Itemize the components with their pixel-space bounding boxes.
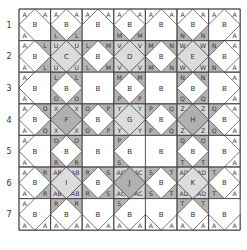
grid-cell-r2-c3: LMLMB <box>82 41 114 73</box>
center-label: D <box>127 53 132 61</box>
center-label: B <box>32 211 37 219</box>
grid-cell-r5-c3: B <box>82 135 114 167</box>
corner-label: W <box>200 42 206 49</box>
corner-label: M <box>148 64 153 71</box>
corner-label: R <box>75 200 80 207</box>
corner-label: N <box>201 32 206 39</box>
corner-label: R <box>54 200 59 207</box>
row-label: 3 <box>6 84 11 93</box>
grid-cell-r1-c1: AAAB <box>19 9 51 41</box>
center-label: B <box>222 148 227 156</box>
grid-cell-r6-c3: RSRSB <box>82 167 114 199</box>
corner-label: Y <box>116 127 121 134</box>
corner-label: P <box>138 95 142 102</box>
grid-cell-r7-c4: SAAB <box>114 199 146 231</box>
center-label: B <box>96 21 101 29</box>
center-label: B <box>32 53 37 61</box>
corner-label: T <box>169 190 174 197</box>
center-label: B <box>127 148 132 156</box>
corner-label: O <box>85 127 90 134</box>
corner-label: Q <box>212 127 217 134</box>
grid-cell-r3-c7: AAB <box>209 72 241 104</box>
corner-label: R <box>86 169 91 176</box>
corner-label: R <box>54 159 59 166</box>
center-label: B <box>32 85 37 93</box>
center-label: B <box>32 116 37 124</box>
grid-cell-r5-c4: PSB <box>114 135 146 167</box>
center-label: B <box>222 21 227 29</box>
corner-label: Q <box>201 137 206 144</box>
corner-label: Z <box>201 105 205 112</box>
center-label: B <box>159 148 164 156</box>
corner-label: S <box>106 169 110 176</box>
grid-cell-r7-c1: AAAB <box>19 199 51 231</box>
center-label: B <box>32 179 37 187</box>
center-label: B <box>190 211 195 219</box>
corner-label: S <box>117 159 121 166</box>
center-label: B <box>222 211 227 219</box>
grid-cell-r5-c6: QQTTB <box>177 135 209 167</box>
corner-label: U <box>74 42 79 49</box>
corner-label: Q <box>201 95 206 102</box>
grid-cell-r4-c1: AOAOB <box>19 104 51 136</box>
grid-cell-r5-c1: AAB <box>19 135 51 167</box>
corner-label: L <box>43 42 47 49</box>
grid-cell-r7-c7: AAB <box>209 199 241 231</box>
center-label: B <box>159 53 164 61</box>
corner-label: P <box>149 127 153 134</box>
corner-label: Q <box>180 137 185 144</box>
corner-label: Y <box>137 127 142 134</box>
grid-cell-r3-c1: AAB <box>19 72 51 104</box>
corner-label: W <box>179 42 185 49</box>
corner-label: T <box>200 200 205 207</box>
corner-label: O <box>54 137 59 144</box>
quilt-grid-diagram: AAABAALLBAABAAMMBAABAANNBAAABALALBUUUUCL… <box>0 0 247 250</box>
corner-label: N <box>180 32 185 39</box>
corner-label: S <box>106 190 110 197</box>
corner-label: M <box>117 74 122 81</box>
grid-cell-r5-c7: AAB <box>209 135 241 167</box>
center-label: B <box>190 85 195 93</box>
center-label: B <box>222 85 227 93</box>
center-label: B <box>96 148 101 156</box>
grid-cell-r2-c4: VVVVD <box>114 41 146 73</box>
grid-cell-r4-c3: OPOPB <box>82 104 114 136</box>
corner-label: L <box>54 32 58 39</box>
center-label: B <box>222 179 227 187</box>
grid-cell-r1-c5: AAB <box>145 9 177 41</box>
corner-label: X <box>75 105 80 112</box>
corner-label: Q <box>169 127 174 134</box>
row-label: 6 <box>6 179 11 188</box>
center-label: B <box>32 148 37 156</box>
corner-label: M <box>117 32 122 39</box>
corner-label: O <box>74 95 79 102</box>
center-label: B <box>190 148 195 156</box>
corner-label: N <box>169 42 174 49</box>
corner-label: O <box>74 137 79 144</box>
grid-cell-r7-c5: AAB <box>145 199 177 231</box>
center-label: B <box>222 116 227 124</box>
center-label: I <box>65 179 67 187</box>
corner-label: P <box>117 137 121 144</box>
center-label: C <box>64 53 69 61</box>
grid-cell-r3-c2: LLOOB <box>51 72 83 104</box>
corner-label: N <box>212 42 217 49</box>
row-label: 5 <box>6 147 11 156</box>
center-label: B <box>127 211 132 219</box>
corner-label: T <box>169 169 174 176</box>
grid-cell-r1-c6: AANNB <box>177 9 209 41</box>
grid-cell-r3-c3: B <box>82 72 114 104</box>
center-label: B <box>159 179 164 187</box>
grid-cell-r6-c5: STSTB <box>145 167 177 199</box>
corner-label: T <box>211 169 216 176</box>
corner-label: M <box>106 64 111 71</box>
grid-cell-r4-c4: YYYYG <box>114 104 146 136</box>
corner-label: X <box>54 127 59 134</box>
grid-cell-r3-c6: NNQQB <box>177 72 209 104</box>
grid-cell-r2-c6: WWWWE <box>177 41 209 73</box>
corner-label: S <box>149 169 153 176</box>
corner-label: Z <box>201 127 205 134</box>
corner-label: L <box>86 42 90 49</box>
center-label: B <box>64 211 69 219</box>
corner-label: W <box>200 64 206 71</box>
